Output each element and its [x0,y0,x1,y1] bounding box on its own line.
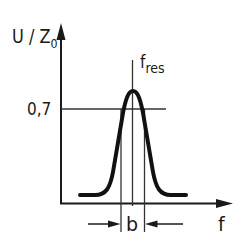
arrow-left-icon [145,221,158,228]
x-axis [60,199,233,208]
resonance-frequency-label: fres [140,54,165,71]
y-axis-label-main: U / Z [12,25,51,47]
x-axis-arrow-icon [216,199,233,208]
y-axis-label: U / Z0 [12,27,58,46]
y-axis-label-subscript: 0 [51,36,58,51]
bandwidth-label: b [126,215,138,234]
level-0-7-label: 0,7 [27,100,51,118]
x-axis-label: f [218,215,225,234]
fres-label-subscript: res [145,60,164,76]
arrow-right-icon [108,221,121,228]
